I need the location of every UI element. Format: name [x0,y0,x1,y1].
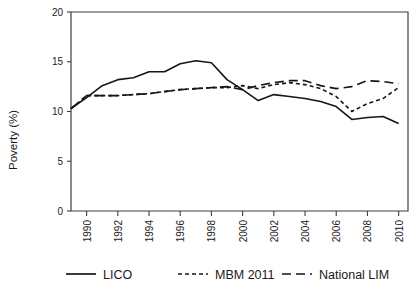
y-tick-label: 15 [52,56,64,67]
legend-label-national-lim: National LIM [319,268,389,282]
legend-label-lico: LICO [103,268,132,282]
poverty-line-chart: Poverty (%) 05101520 1990199219941996199… [0,0,418,293]
chart-canvas: Poverty (%) 05101520 1990199219941996199… [0,0,418,293]
y-tick-label: 0 [57,206,63,217]
x-tick-label: 2010 [394,220,405,243]
y-tick-label: 10 [52,106,64,117]
legend-label-mbm-2011: MBM 2011 [215,268,275,282]
chart-legend: LICOMBM 2011National LIM [66,268,389,282]
y-tick-label: 20 [52,7,64,18]
x-tick-label: 1998 [206,220,217,243]
chart-background [0,0,418,293]
x-tick-label: 2000 [238,220,249,243]
x-tick-label: 1992 [113,220,124,243]
x-tick-label: 2008 [362,220,373,243]
y-axis-title: Poverty (%) [7,110,19,170]
x-tick-label: 2002 [269,220,280,243]
x-tick-label: 1994 [144,220,155,243]
y-tick-label: 5 [57,156,63,167]
x-tick-label: 1996 [175,220,186,243]
x-tick-label: 2006 [331,220,342,243]
x-tick-label: 1990 [82,220,93,243]
x-tick-label: 2004 [300,220,311,243]
